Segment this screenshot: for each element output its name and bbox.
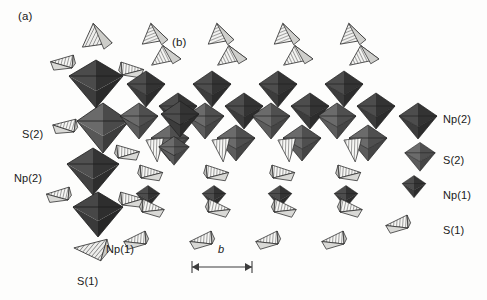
label-b-np1: Np(1) (443, 189, 471, 201)
panel-label-a: (a) (18, 10, 32, 22)
label-a-s2: S(2) (22, 128, 43, 140)
figure-canvas: (a) (b) S(2) Np(2) Np(1) S(1) Np(2) S(2)… (0, 0, 487, 300)
label-b-s1: S(1) (443, 224, 464, 236)
label-a-np1: Np(1) (106, 243, 134, 255)
panel-label-b: (b) (172, 36, 186, 48)
label-a-np2: Np(2) (14, 172, 42, 184)
label-b-np2: Np(2) (443, 113, 471, 125)
axis-label-b: b (218, 243, 224, 255)
structure-drawing (0, 0, 487, 300)
label-a-s1: S(1) (77, 275, 98, 287)
label-b-s2: S(2) (443, 154, 464, 166)
